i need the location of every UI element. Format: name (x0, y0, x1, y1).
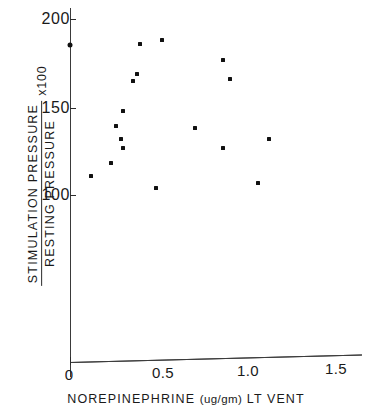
data-point (121, 146, 125, 150)
data-point (267, 137, 271, 141)
x-axis-tick (70, 357, 71, 365)
data-point (68, 43, 73, 48)
data-point (160, 38, 164, 42)
x-axis-tick-label: 1.5 (325, 360, 347, 377)
x-axis-title-suffix: LT VENT (247, 392, 305, 406)
data-point (89, 174, 93, 178)
x-axis-title-units: (ug/gm) (200, 393, 242, 405)
data-point (121, 109, 125, 113)
y-axis-title-fraction: STIMULATION PRESSURE RESTING PRESSURE (26, 101, 58, 286)
x-axis-tick-label: 0 (65, 366, 74, 383)
data-point (138, 42, 142, 46)
x-axis-tick-label: 0.5 (152, 364, 174, 381)
data-point (193, 126, 197, 130)
y-axis-line (70, 8, 71, 377)
y-axis-tick (70, 19, 76, 20)
data-point (114, 124, 118, 128)
data-point (221, 146, 225, 150)
data-point (221, 58, 225, 62)
data-point (135, 72, 139, 76)
y-axis-title: STIMULATION PRESSURE RESTING PRESSURE x1… (26, 26, 58, 326)
data-point (119, 137, 123, 141)
x-axis-title-main: NOREPINEPHRINE (67, 392, 195, 406)
data-point (131, 79, 135, 83)
y-axis-title-numerator: STIMULATION PRESSURE (26, 101, 41, 286)
data-point (228, 77, 232, 81)
y-axis-tick (70, 195, 76, 196)
y-axis-title-multiplier: x100 (35, 66, 49, 96)
x-axis-title: NOREPINEPHRINE (ug/gm) LT VENT (0, 392, 372, 406)
y-axis-title-denominator: RESTING PRESSURE (43, 117, 58, 270)
y-axis-tick (70, 108, 76, 109)
x-axis-line (70, 355, 362, 363)
data-point (109, 161, 113, 165)
data-point (256, 181, 260, 185)
data-point (154, 186, 158, 190)
x-axis-tick-label: 1.0 (237, 362, 259, 379)
scatter-plot-figure: 200 150 100 0 0.5 1.0 1.5 STIMULATION PR… (0, 0, 372, 415)
